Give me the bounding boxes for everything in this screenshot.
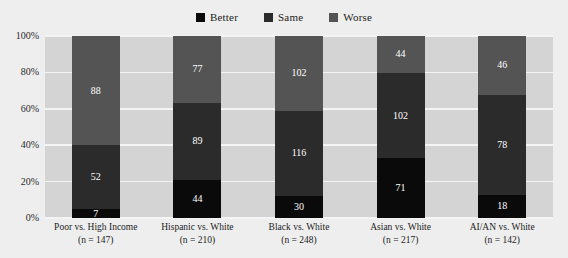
- bar-segment-better[interactable]: 30: [275, 196, 323, 218]
- x-axis-category-label: Asian vs. White(n = 217): [350, 221, 452, 255]
- y-axis-tick-label: 100%: [16, 31, 39, 41]
- x-axis-category-count: (n = 248): [248, 234, 350, 247]
- x-axis-category-label: Black vs. White(n = 248): [248, 221, 350, 255]
- bar-segment-better[interactable]: 18: [478, 195, 526, 218]
- bar-series-group: 75288448977301161027110244187846: [45, 36, 553, 218]
- bar-segment-value: 89: [192, 136, 202, 146]
- stacked-bar[interactable]: 75288: [72, 36, 120, 218]
- chart-legend: BetterSameWorse: [0, 12, 568, 23]
- bar-segment-worse[interactable]: 46: [478, 36, 526, 95]
- bar-segment-value: 88: [91, 86, 101, 96]
- bar-segment-worse[interactable]: 77: [173, 36, 221, 103]
- bar-segment-value: 44: [192, 194, 202, 204]
- legend-swatch-icon: [196, 13, 205, 22]
- legend-label: Better: [210, 12, 238, 23]
- bar-segment-value: 77: [192, 64, 202, 74]
- stacked-bar[interactable]: 448977: [173, 36, 221, 218]
- bar-segment-same[interactable]: 52: [72, 145, 120, 209]
- x-axis-category-name: Hispanic vs. White: [147, 221, 249, 234]
- y-axis-tick-label: 60%: [21, 104, 39, 114]
- legend-item-same[interactable]: Same: [264, 12, 303, 23]
- x-axis-category-name: Black vs. White: [248, 221, 350, 234]
- bar-column: 448977: [147, 36, 249, 218]
- bar-segment-same[interactable]: 102: [377, 73, 425, 159]
- y-axis-tick-label: 0%: [26, 213, 39, 223]
- stacked-bar-chart: BetterSameWorse 0%20%40%60%80%100% 75288…: [0, 0, 568, 258]
- x-axis-category-name: AI/AN vs. White: [451, 221, 553, 234]
- bar-segment-value: 116: [292, 148, 307, 158]
- bar-segment-value: 71: [396, 183, 406, 193]
- bar-segment-value: 102: [291, 68, 306, 78]
- bar-segment-worse[interactable]: 102: [275, 36, 323, 111]
- bar-segment-value: 78: [497, 140, 507, 150]
- x-axis-category-count: (n = 142): [451, 234, 553, 247]
- legend-item-better[interactable]: Better: [196, 12, 238, 23]
- y-axis-tick-label: 40%: [21, 140, 39, 150]
- x-axis-category-count: (n = 147): [45, 234, 147, 247]
- stacked-bar[interactable]: 187846: [478, 36, 526, 218]
- bar-segment-value: 18: [497, 201, 507, 211]
- y-axis: 0%20%40%60%80%100%: [0, 36, 45, 218]
- bar-segment-value: 44: [396, 49, 406, 59]
- bar-segment-value: 102: [393, 111, 408, 121]
- bar-segment-same[interactable]: 78: [478, 95, 526, 195]
- legend-item-worse[interactable]: Worse: [329, 12, 372, 23]
- bar-segment-better[interactable]: 44: [173, 180, 221, 218]
- x-axis-category-count: (n = 210): [147, 234, 249, 247]
- bar-segment-value: 7: [93, 209, 98, 218]
- bar-segment-better[interactable]: 7: [72, 209, 120, 218]
- y-axis-tick-label: 80%: [21, 67, 39, 77]
- bar-segment-value: 30: [294, 202, 304, 212]
- x-axis: Poor vs. High Income(n = 147)Hispanic vs…: [45, 221, 553, 255]
- bar-segment-value: 46: [497, 60, 507, 70]
- bar-column: 75288: [45, 36, 147, 218]
- x-axis-category-count: (n = 217): [350, 234, 452, 247]
- bar-segment-worse[interactable]: 44: [377, 36, 425, 73]
- bar-column: 187846: [451, 36, 553, 218]
- legend-label: Same: [278, 12, 303, 23]
- stacked-bar[interactable]: 30116102: [275, 36, 323, 218]
- x-axis-category-name: Poor vs. High Income: [45, 221, 147, 234]
- bar-column: 30116102: [248, 36, 350, 218]
- x-axis-category-name: Asian vs. White: [350, 221, 452, 234]
- bar-segment-same[interactable]: 116: [275, 111, 323, 196]
- legend-swatch-icon: [264, 13, 273, 22]
- bar-segment-value: 52: [91, 172, 101, 182]
- legend-swatch-icon: [329, 13, 338, 22]
- x-axis-category-label: AI/AN vs. White(n = 142): [451, 221, 553, 255]
- bar-segment-better[interactable]: 71: [377, 158, 425, 218]
- bar-column: 7110244: [350, 36, 452, 218]
- plot-area: 75288448977301161027110244187846: [45, 36, 553, 218]
- stacked-bar[interactable]: 7110244: [377, 36, 425, 218]
- bar-segment-worse[interactable]: 88: [72, 36, 120, 145]
- x-axis-category-label: Hispanic vs. White(n = 210): [147, 221, 249, 255]
- legend-label: Worse: [343, 12, 372, 23]
- x-axis-category-label: Poor vs. High Income(n = 147): [45, 221, 147, 255]
- y-axis-tick-label: 20%: [21, 177, 39, 187]
- bar-segment-same[interactable]: 89: [173, 103, 221, 180]
